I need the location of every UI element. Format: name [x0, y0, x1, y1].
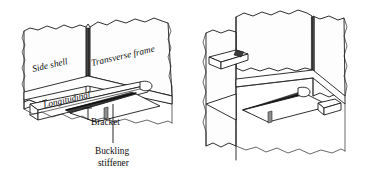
rv-transverse-frame-web [236, 10, 313, 71]
label-bracket: Bracket [91, 117, 120, 127]
rv-buckling-stiffener [268, 111, 272, 123]
frame-shell-joint-hatch-upper [86, 28, 90, 76]
left-view: Side shell Transverse frame Longitudinal… [22, 18, 172, 168]
rv-side-shell-left [206, 30, 236, 147]
rv-lower-torn-boundary [236, 146, 345, 154]
longitudinal-end-cap [140, 81, 152, 91]
rv-frame-joint-hatch [311, 17, 314, 71]
plate-apex-join [86, 24, 90, 27]
label-buckling-stiffener-line2: stiffener [98, 158, 130, 168]
right-view [203, 10, 347, 160]
rv-longitudinal-end-cap [298, 87, 310, 97]
structural-detail-figure: Side shell Transverse frame Longitudinal… [0, 0, 368, 175]
label-buckling-stiffener-line1: Buckling [95, 146, 129, 156]
figure-canvas: Side shell Transverse frame Longitudinal… [0, 0, 368, 175]
